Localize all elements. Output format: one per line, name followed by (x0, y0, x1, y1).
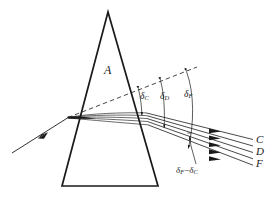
spectral-line-label-c: C (256, 134, 263, 145)
delta-subscript-d: D (164, 94, 169, 101)
ray-entry-node (68, 116, 96, 118)
delta-subscript-c: C (144, 94, 148, 101)
prism-apex-angle-label: A (104, 64, 111, 76)
spectral-line-label-f: F (256, 158, 263, 169)
dispersion-label: δF−δC (176, 166, 198, 176)
deviation-angle-f-label: δF (184, 90, 192, 100)
prism-dispersion-figure: A δC δD δF C D F δF−δC (0, 0, 275, 208)
incident-ray (12, 117, 69, 153)
spectral-line-label-d: D (256, 146, 264, 157)
dispersion-sub-c: C (193, 168, 197, 175)
emergent-rays (146, 113, 253, 165)
deviation-angle-d-label: δD (160, 92, 169, 102)
dispersion-leader-line (188, 133, 197, 164)
emergent-ray-arrowheads (209, 129, 221, 162)
emergent-ray-d2 (147, 122, 253, 159)
deviation-angle-c-label: δC (140, 92, 149, 102)
delta-subscript-f: F (188, 92, 192, 99)
figure-canvas (0, 0, 275, 208)
